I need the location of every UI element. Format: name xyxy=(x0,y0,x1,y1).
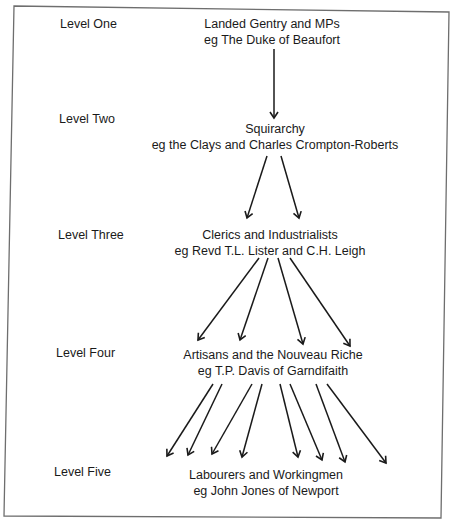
node-example: eg the Clays and Charles Crompton-Robert… xyxy=(152,137,399,153)
node-level-five: Labourers and Workingmen eg John Jones o… xyxy=(189,467,343,499)
node-title: Artisans and the Nouveau Riche xyxy=(183,347,362,363)
arrow-4-to-5 xyxy=(290,384,322,460)
arrow-4-to-5 xyxy=(327,384,386,463)
node-example: eg John Jones of Newport xyxy=(189,483,343,499)
node-title: Squirarchy xyxy=(152,121,399,137)
diagram-border xyxy=(4,6,449,518)
node-level-four: Artisans and the Nouveau Riche eg T.P. D… xyxy=(183,347,362,379)
level-label-two: Level Two xyxy=(59,112,115,126)
node-example: eg Revd T.L. Lister and C.H. Leigh xyxy=(175,243,366,259)
node-example: eg T.P. Davis of Garndifaith xyxy=(183,363,362,379)
node-level-three: Clerics and Industrialists eg Revd T.L. … xyxy=(175,227,366,259)
level-label-five: Level Five xyxy=(54,465,111,479)
arrow-3-to-4 xyxy=(198,258,259,340)
node-level-one: Landed Gentry and MPs eg The Duke of Bea… xyxy=(204,16,340,48)
node-title: Landed Gentry and MPs xyxy=(204,16,340,32)
arrow-4-to-5 xyxy=(316,384,345,462)
arrow-3-to-4 xyxy=(240,258,268,340)
arrow-4-to-5 xyxy=(167,384,213,456)
arrow-2-to-3 xyxy=(247,156,267,218)
level-label-four: Level Four xyxy=(56,346,115,360)
node-level-two: Squirarchy eg the Clays and Charles Crom… xyxy=(152,121,399,153)
node-example: eg The Duke of Beaufort xyxy=(204,32,340,48)
level-label-one: Level One xyxy=(60,17,117,31)
arrow-2-to-3 xyxy=(281,156,299,218)
diagram-canvas xyxy=(0,0,452,522)
node-title: Clerics and Industrialists xyxy=(175,227,366,243)
node-title: Labourers and Workingmen xyxy=(189,467,343,483)
level-label-three: Level Three xyxy=(58,228,124,242)
